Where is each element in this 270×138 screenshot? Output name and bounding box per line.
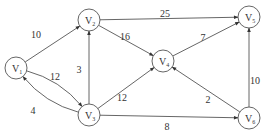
nodes-layer: V1V2V3V4V5V6 <box>5 6 260 129</box>
edge-weight-label: 8 <box>165 121 170 132</box>
edge-v3-v6 <box>100 115 238 118</box>
edge-weight-label: 2 <box>206 94 211 105</box>
edge-weight-label: 3 <box>77 64 82 75</box>
node-v6: V6 <box>238 107 260 129</box>
edge-weight-label: 10 <box>250 75 260 86</box>
edge-weight-label: 12 <box>117 92 127 103</box>
edge-weight-label: 12 <box>50 71 60 82</box>
node-v5: V5 <box>238 6 260 28</box>
edges-layer: 10124316251278210 <box>23 8 260 132</box>
edge-v4-v5 <box>173 22 239 56</box>
edge-weight-label: 25 <box>160 8 170 19</box>
edge-weight-label: 4 <box>31 105 36 116</box>
edge-weight-label: 7 <box>201 32 206 43</box>
node-v4: V4 <box>152 50 174 72</box>
node-v2: V2 <box>78 9 100 31</box>
graph-diagram: 10124316251278210 V1V2V3V4V5V6 <box>0 0 270 138</box>
edge-weight-label: 16 <box>120 31 130 42</box>
node-v1: V1 <box>5 57 27 79</box>
node-v3: V3 <box>78 104 100 126</box>
edge-v6-v4 <box>172 67 240 112</box>
edge-weight-label: 10 <box>31 29 41 40</box>
